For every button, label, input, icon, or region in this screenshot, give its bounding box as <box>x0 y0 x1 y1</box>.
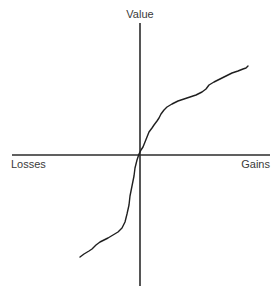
x-axis-label-gains: Gains <box>241 159 270 170</box>
value-function-diagram: Value Losses Gains <box>0 0 280 299</box>
y-axis-label-value: Value <box>126 9 153 20</box>
x-axis-label-losses: Losses <box>11 159 46 170</box>
plot-area <box>0 0 280 299</box>
value-curve <box>80 66 248 257</box>
